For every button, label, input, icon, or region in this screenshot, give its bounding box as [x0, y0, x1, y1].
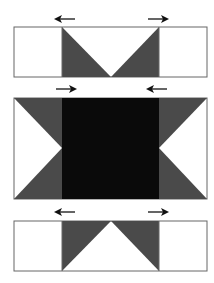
bottom-row-outline	[14, 221, 207, 271]
middle-row	[14, 89, 207, 199]
quilt-block-diagram	[0, 0, 214, 283]
bottom-row	[14, 212, 207, 271]
top-row	[14, 19, 207, 77]
center-dark-square	[62, 98, 159, 199]
top-row-outline	[14, 27, 207, 77]
